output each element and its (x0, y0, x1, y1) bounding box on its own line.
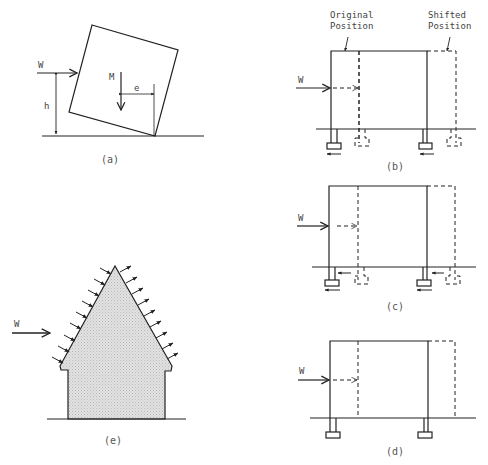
right-footing-shifted (447, 129, 461, 146)
label-original-2: Position (330, 21, 373, 31)
label-w-c: W (298, 213, 304, 223)
panel-e-roof-pressure (12, 266, 186, 419)
left-footing-shifted (355, 129, 369, 146)
label-w-d: W (299, 366, 305, 376)
leader-shifted (447, 37, 450, 51)
frame-racked-right (428, 341, 455, 418)
caption-d: (d) (386, 446, 404, 457)
caption-e: (e) (104, 435, 122, 446)
label-m: M (109, 72, 115, 82)
panel-a-overturning (37, 25, 204, 136)
label-h: h (44, 101, 49, 111)
left-footing (325, 280, 339, 286)
label-e: e (134, 83, 139, 93)
label-shifted-1: Shifted (428, 10, 466, 20)
panel-b-sliding (296, 37, 476, 154)
left-footing (326, 432, 340, 438)
label-w-a: W (38, 60, 44, 70)
caption-b: (b) (386, 161, 404, 172)
right-footing (419, 143, 432, 149)
house-shape (60, 266, 172, 419)
wind-load-diagram: W h M e (a) Original Position Shifted Po… (0, 0, 488, 465)
caption-a: (a) (101, 154, 119, 165)
label-w-e: W (14, 319, 20, 329)
tilted-block (69, 25, 178, 136)
right-footing (418, 432, 432, 438)
panel-d-racking (298, 341, 476, 438)
left-footing (327, 143, 341, 149)
right-footing (417, 280, 431, 286)
leader-original (345, 37, 348, 51)
panel-c-soil-failure (297, 186, 476, 290)
caption-c: (c) (386, 301, 404, 312)
frame-original (329, 186, 427, 280)
label-original-1: Original (330, 10, 373, 20)
frame-shifted-right (427, 186, 455, 280)
label-w-b: W (298, 75, 304, 85)
label-shifted-2: Position (428, 21, 471, 31)
